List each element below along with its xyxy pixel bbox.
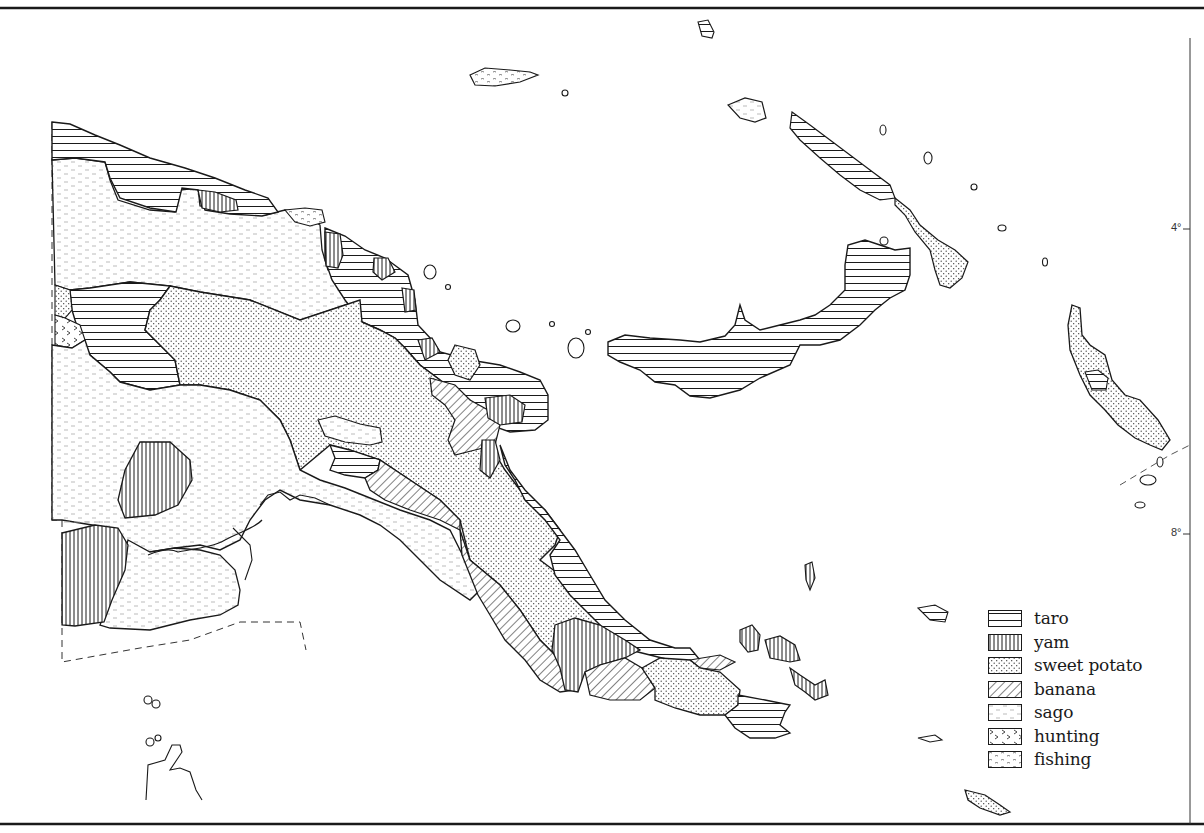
legend-label-sweet-potato: sweet potato: [1034, 657, 1142, 674]
legend-label-taro: taro: [1034, 610, 1069, 627]
island-manus-sago: [728, 98, 766, 122]
island-louisiade-sweet: [965, 790, 1010, 815]
island-normanby-yam: [790, 668, 828, 700]
taro-swatch-icon: [988, 610, 1022, 627]
legend-item-sweet-potato: sweet potato: [988, 654, 1188, 678]
legend-item-sago: sago: [988, 701, 1188, 725]
island-bougainville-sweet: [1068, 305, 1170, 450]
island-wuvulu-fishing: [470, 68, 538, 86]
legend-item-taro: taro: [988, 607, 1188, 631]
latitude-label-8: 8°: [1171, 526, 1182, 538]
food-zone-map: 4° 8° taro yam sweet potato banana sago …: [0, 0, 1204, 833]
banana-swatch-icon: [988, 681, 1022, 698]
hunting-swatch-icon: [988, 728, 1022, 745]
yam-swatch-icon: [988, 634, 1022, 651]
legend-label-sago: sago: [1034, 704, 1073, 721]
island-fergusson-yam: [765, 636, 800, 662]
region-yam-sepik-1: [325, 232, 343, 268]
legend-item-fishing: fishing: [988, 748, 1188, 772]
legend-label-yam: yam: [1034, 634, 1069, 651]
legend-label-hunting: hunting: [1034, 728, 1100, 745]
region-yam-sepik-3: [402, 288, 416, 312]
island-new-britain-taro: [608, 240, 910, 398]
legend-label-banana: banana: [1034, 681, 1096, 698]
legend-item-hunting: hunting: [988, 725, 1188, 749]
island-trobriand-yam: [805, 562, 815, 590]
coastline-cape-york: [146, 745, 202, 800]
sweet-potato-swatch-icon: [988, 657, 1022, 674]
legend: taro yam sweet potato banana sago huntin…: [988, 607, 1188, 772]
legend-label-fishing: fishing: [1034, 751, 1091, 768]
legend-item-banana: banana: [988, 678, 1188, 702]
island-woodlark-taro: [918, 605, 948, 622]
island-new-ireland-taro: [790, 112, 895, 200]
fishing-swatch-icon: [988, 751, 1022, 768]
island-goodenough-yam: [740, 625, 760, 652]
legend-item-yam: yam: [988, 631, 1188, 655]
island-north-taro: [698, 20, 714, 38]
sago-swatch-icon: [988, 704, 1022, 721]
latitude-label-4: 4°: [1171, 221, 1182, 233]
island-small-outline: [918, 735, 942, 742]
region-sweetpotato-far-west: [55, 285, 72, 318]
